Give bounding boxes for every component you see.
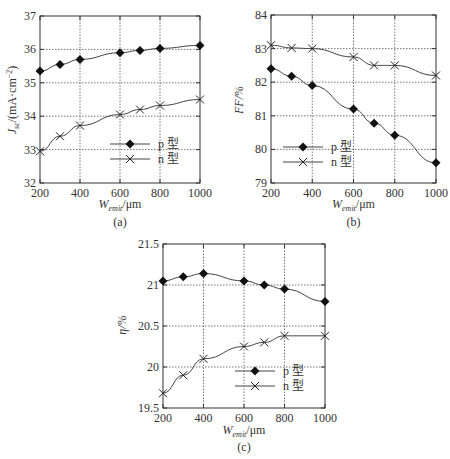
- y-axis-label: FF/%: [232, 86, 246, 115]
- diamond-marker-icon: [136, 46, 145, 55]
- y-tick-label: 80: [255, 142, 267, 156]
- diamond-marker-icon: [299, 143, 308, 152]
- figure: 2004006008001000323334353637p 型n 型Wemit/…: [0, 0, 450, 459]
- diamond-marker-icon: [199, 269, 208, 278]
- legend-n-label: n 型: [283, 379, 304, 393]
- chart-a: 2004006008001000323334353637p 型n 型Wemit/…: [5, 9, 212, 229]
- y-tick-label: 32: [24, 176, 36, 190]
- diamond-marker-icon: [116, 48, 125, 57]
- y-tick-label: 84: [255, 8, 267, 22]
- x-tick-label: 1000: [188, 186, 212, 200]
- diamond-marker-icon: [240, 276, 249, 285]
- diamond-marker-icon: [432, 158, 441, 167]
- diamond-marker-icon: [126, 140, 135, 149]
- y-tick-label: 21: [147, 278, 159, 292]
- y-tick-label: 35: [24, 76, 36, 90]
- y-tick-label: 34: [24, 109, 36, 123]
- y-tick-label: 83: [255, 42, 267, 56]
- series-p: [36, 41, 205, 76]
- diamond-marker-icon: [76, 55, 85, 64]
- diamond-marker-icon: [56, 60, 65, 69]
- caption: (a): [113, 215, 126, 229]
- diamond-marker-icon: [280, 285, 289, 294]
- caption: (b): [347, 215, 361, 229]
- x-tick-label: 400: [303, 186, 321, 200]
- x-tick-label: 1000: [313, 411, 337, 425]
- diamond-marker-icon: [260, 281, 269, 290]
- legend-p-label: p 型: [158, 137, 179, 151]
- diamond-marker-icon: [390, 131, 399, 140]
- diamond-marker-icon: [251, 367, 260, 376]
- diamond-marker-icon: [321, 297, 330, 306]
- diamond-marker-icon: [179, 272, 188, 281]
- legend-n-label: n 型: [158, 152, 179, 166]
- diamond-marker-icon: [267, 64, 276, 73]
- caption: (c): [237, 440, 250, 454]
- diamond-marker-icon: [287, 72, 296, 81]
- y-tick-label: 20.5: [138, 319, 159, 333]
- chart-c: 200400600800100019.52020.52121.5p 型n 型We…: [115, 237, 337, 454]
- y-tick-label: 33: [24, 143, 36, 157]
- y-axis-label: Jsc/(mA·cm−2): [5, 66, 21, 135]
- y-tick-label: 21.5: [138, 237, 159, 251]
- diamond-marker-icon: [159, 276, 168, 285]
- y-tick-label: 82: [255, 75, 267, 89]
- x-tick-label: 800: [151, 186, 169, 200]
- y-tick-label: 79: [255, 176, 267, 190]
- diamond-marker-icon: [36, 67, 45, 76]
- x-tick-label: 800: [276, 411, 294, 425]
- legend: p 型n 型: [235, 364, 304, 393]
- diamond-marker-icon: [196, 41, 205, 50]
- legend-p-label: p 型: [331, 140, 352, 154]
- diamond-marker-icon: [156, 44, 165, 53]
- y-tick-label: 81: [255, 109, 267, 123]
- y-axis-label: η/%: [115, 315, 129, 334]
- y-tick-label: 37: [24, 9, 36, 23]
- diamond-marker-icon: [349, 105, 358, 114]
- grid: [271, 15, 436, 183]
- y-tick-label: 19.5: [138, 401, 159, 415]
- legend-n-label: n 型: [331, 155, 352, 169]
- diamond-marker-icon: [308, 81, 317, 90]
- legend: p 型n 型: [283, 140, 352, 169]
- y-tick-label: 20: [147, 360, 159, 374]
- chart-b: 2004006008001000798081828384p 型n 型Wemit/…: [232, 8, 448, 229]
- legend-p-label: p 型: [283, 364, 304, 378]
- x-tick-label: 400: [71, 186, 89, 200]
- x-tick-label: 400: [195, 411, 213, 425]
- y-tick-label: 36: [24, 42, 36, 56]
- x-tick-label: 800: [386, 186, 404, 200]
- x-axis-label: Wemit/μm: [223, 423, 267, 439]
- x-tick-label: 1000: [424, 186, 448, 200]
- diamond-marker-icon: [370, 119, 379, 128]
